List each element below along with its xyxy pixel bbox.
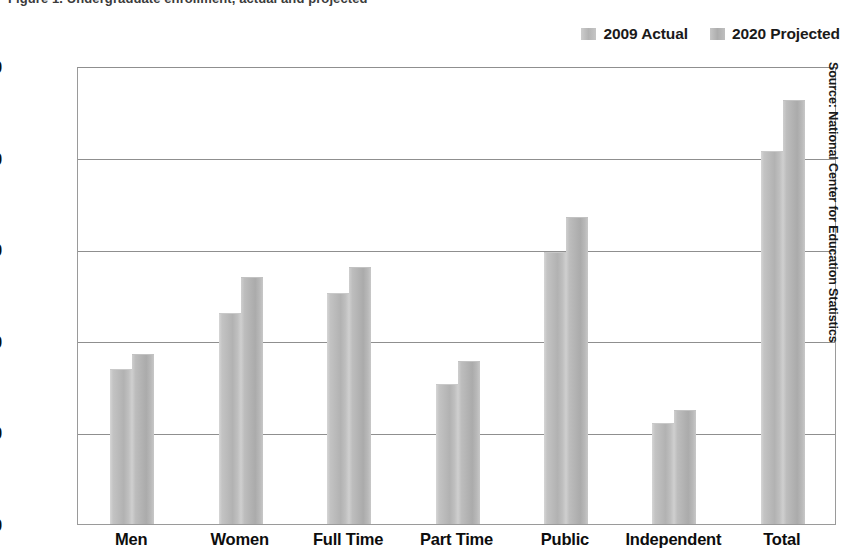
bar-group: [110, 68, 154, 524]
legend-item-2020-projected: 2020 Projected: [710, 25, 840, 43]
y-axis-tick-label: 15,000: [0, 241, 2, 260]
bar-group: [436, 68, 480, 524]
x-axis-tick-label: Independent: [625, 530, 721, 549]
bar-group: [327, 68, 371, 524]
source-note: Source: National Center for Education St…: [826, 62, 840, 343]
bar-women-actual: [219, 313, 241, 524]
page-title: Figure 1. Undergraduate enrollment, actu…: [8, 0, 368, 6]
bar-full-time-actual: [327, 293, 349, 524]
y-axis-tick-label: 5,000: [0, 424, 2, 443]
bar-group: [652, 68, 696, 524]
bar-total-actual: [761, 151, 783, 524]
x-axis-tick-label: Public: [541, 530, 589, 549]
bar-women-projected: [241, 277, 263, 524]
bar-independent-projected: [674, 410, 696, 524]
legend-swatch-icon: [710, 28, 725, 40]
bar-group: [219, 68, 263, 524]
legend-item-2009-actual: 2009 Actual: [581, 25, 687, 43]
bar-part-time-actual: [436, 384, 458, 524]
x-axis-tick-label: Women: [211, 530, 269, 549]
bar-men-projected: [132, 354, 154, 524]
legend-label: 2009 Actual: [603, 25, 687, 43]
bar-group: [544, 68, 588, 524]
x-axis-tick-label: Total: [763, 530, 800, 549]
bar-men-actual: [110, 369, 132, 524]
bar-full-time-projected: [349, 267, 371, 524]
legend-swatch-icon: [581, 28, 596, 40]
bar-part-time-projected: [458, 361, 480, 524]
y-axis-tick-label: 20,000: [0, 149, 2, 168]
x-axis-tick-label: Part Time: [420, 530, 493, 549]
chart-page: Figure 1. Undergraduate enrollment, actu…: [0, 0, 868, 557]
y-axis-tick-label: 10,000: [0, 332, 2, 351]
y-axis-tick-label: 0: [0, 516, 2, 535]
plot-area: [77, 67, 836, 525]
x-axis-tick-label: Men: [115, 530, 147, 549]
bar-public-projected: [566, 217, 588, 524]
bar-independent-actual: [652, 423, 674, 524]
chart-legend: 2009 Actual 2020 Projected: [581, 24, 840, 44]
bar-total-projected: [783, 100, 805, 524]
x-axis-tick-label: Full Time: [313, 530, 383, 549]
legend-label: 2020 Projected: [732, 25, 840, 43]
y-axis-tick-label: 25,000: [0, 58, 2, 77]
bar-public-actual: [544, 252, 566, 524]
bar-group: [761, 68, 805, 524]
